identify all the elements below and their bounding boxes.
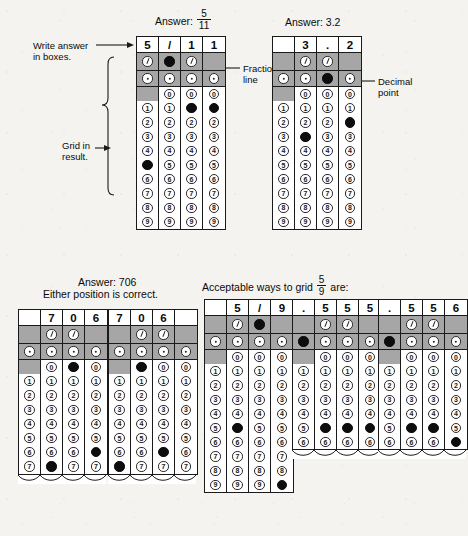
decimal-cell[interactable]	[295, 71, 317, 86]
digit-bubble-6[interactable]: 6	[320, 437, 330, 447]
digit-cell[interactable]: 6	[293, 435, 315, 449]
digit-bubble-filled-3[interactable]: 3	[300, 132, 310, 142]
digit-bubble-1[interactable]: 1	[114, 376, 124, 386]
digit-bubble-6[interactable]: 6	[406, 437, 416, 447]
digit-bubble-6[interactable]: 6	[365, 437, 375, 447]
digit-cell[interactable]: 4	[293, 407, 315, 421]
digit-bubble-7[interactable]: 7	[209, 188, 219, 198]
digit-bubble-7[interactable]: 7	[24, 461, 34, 471]
digit-bubble-4[interactable]: 4	[428, 409, 438, 419]
decimal-bubble[interactable]	[342, 336, 352, 346]
slash-cell[interactable]	[227, 316, 249, 333]
digit-cell[interactable]: 3	[137, 130, 159, 144]
digit-bubble-6[interactable]: 6	[384, 437, 394, 447]
digit-cell[interactable]: 8	[339, 201, 361, 215]
decimal-cell[interactable]	[339, 71, 361, 86]
digit-cell[interactable]: 7	[153, 459, 175, 473]
slash-bubble[interactable]	[300, 56, 310, 66]
digit-cell[interactable]: 4	[205, 407, 227, 421]
digit-bubble-0[interactable]: 0	[186, 89, 196, 99]
digit-cell[interactable]: 0	[175, 360, 197, 374]
digit-cell[interactable]: 9	[159, 215, 181, 229]
digit-cell[interactable]: 1	[423, 364, 445, 378]
digit-bubble-5[interactable]: 5	[298, 423, 308, 433]
digit-bubble-3[interactable]: 3	[277, 395, 287, 405]
digit-bubble-2[interactable]: 2	[46, 390, 56, 400]
written-answer-box[interactable]: /	[159, 37, 181, 52]
digit-bubble-3[interactable]: 3	[68, 405, 78, 415]
digit-cell[interactable]: 3	[337, 393, 359, 407]
digit-cell[interactable]: 0	[131, 360, 153, 374]
digit-bubble-2[interactable]: 2	[322, 117, 332, 127]
written-answer-box[interactable]: /	[249, 300, 271, 315]
digit-bubble-1[interactable]: 1	[384, 366, 394, 376]
digit-cell[interactable]: 2	[205, 378, 227, 392]
digit-bubble-5[interactable]: 5	[278, 160, 288, 170]
slash-cell[interactable]	[153, 326, 175, 343]
decimal-bubble-filled[interactable]	[322, 73, 332, 83]
digit-cell[interactable]: 9	[227, 478, 249, 492]
digit-cell[interactable]: 4	[109, 417, 131, 431]
digit-bubble-1[interactable]: 1	[181, 376, 191, 386]
digit-cell[interactable]: 1	[337, 364, 359, 378]
digit-cell[interactable]: 4	[203, 144, 225, 158]
written-answer-box[interactable]: 1	[181, 37, 203, 52]
digit-bubble-6[interactable]: 6	[136, 447, 146, 457]
decimal-bubble[interactable]	[209, 73, 219, 83]
decimal-cell[interactable]	[85, 344, 107, 359]
decimal-cell[interactable]	[41, 344, 63, 359]
digit-cell[interactable]: 8	[205, 464, 227, 478]
digit-cell[interactable]: 0	[181, 87, 203, 101]
digit-bubble-filled-0[interactable]: 0	[68, 362, 78, 372]
digit-bubble-filled-5[interactable]: 5	[365, 423, 375, 433]
digit-cell[interactable]: 8	[273, 201, 295, 215]
slash-cell[interactable]	[137, 53, 159, 70]
digit-bubble-7[interactable]: 7	[181, 461, 191, 471]
decimal-bubble[interactable]	[142, 73, 152, 83]
written-answer-box[interactable]: 6	[85, 310, 107, 325]
slash-bubble[interactable]	[46, 329, 56, 339]
digit-bubble-4[interactable]: 4	[91, 419, 101, 429]
digit-cell[interactable]: 3	[109, 403, 131, 417]
digit-bubble-0[interactable]: 0	[277, 352, 287, 362]
digit-cell[interactable]: 5	[203, 158, 225, 172]
digit-cell[interactable]: 7	[137, 186, 159, 200]
digit-cell[interactable]: 1	[19, 374, 41, 388]
digit-cell[interactable]: 6	[181, 172, 203, 186]
digit-cell[interactable]: 2	[295, 115, 317, 129]
decimal-bubble-filled[interactable]	[298, 336, 308, 346]
digit-bubble-7[interactable]: 7	[345, 188, 355, 198]
digit-cell[interactable]: 9	[249, 478, 271, 492]
digit-bubble-4[interactable]: 4	[384, 409, 394, 419]
digit-bubble-6[interactable]: 6	[181, 447, 191, 457]
digit-bubble-5[interactable]: 5	[322, 160, 332, 170]
digit-cell[interactable]: 5	[315, 421, 337, 435]
slash-cell[interactable]	[293, 316, 315, 333]
digit-cell[interactable]: 2	[445, 378, 467, 392]
digit-cell[interactable]: 1	[379, 364, 401, 378]
digit-cell[interactable]: 5	[445, 421, 467, 435]
slash-cell[interactable]	[379, 316, 401, 333]
digit-cell[interactable]: 2	[249, 378, 271, 392]
digit-bubble-1[interactable]: 1	[342, 366, 352, 376]
digit-cell[interactable]: 3	[317, 130, 339, 144]
digit-bubble-7[interactable]: 7	[186, 188, 196, 198]
slash-bubble[interactable]	[158, 329, 168, 339]
digit-bubble-7[interactable]: 7	[277, 451, 287, 461]
digit-bubble-8[interactable]: 8	[142, 203, 152, 213]
digit-cell[interactable]: 3	[423, 393, 445, 407]
digit-cell[interactable]: 0	[337, 350, 359, 364]
digit-cell[interactable]: 6	[445, 435, 467, 449]
digit-cell[interactable]: 6	[175, 445, 197, 459]
digit-cell[interactable]: 7	[271, 449, 293, 463]
slash-cell[interactable]	[401, 316, 423, 333]
digit-bubble-3[interactable]: 3	[164, 132, 174, 142]
slash-cell[interactable]	[317, 53, 339, 70]
digit-bubble-2[interactable]: 2	[164, 117, 174, 127]
digit-bubble-8[interactable]: 8	[210, 466, 220, 476]
digit-bubble-2[interactable]: 2	[298, 380, 308, 390]
digit-cell[interactable]: 0	[85, 360, 107, 374]
digit-cell[interactable]: 9	[203, 215, 225, 229]
digit-cell[interactable]: 2	[109, 388, 131, 402]
slash-bubble-filled[interactable]	[164, 56, 174, 66]
